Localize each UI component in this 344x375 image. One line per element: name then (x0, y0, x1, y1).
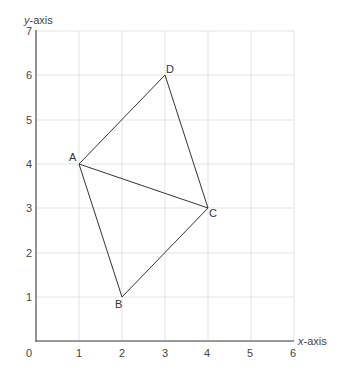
x-axis-title: x-axis (297, 335, 327, 347)
y-tick: 2 (26, 247, 32, 259)
x-tick: 5 (247, 347, 253, 359)
x-tick: 3 (162, 347, 168, 359)
x-tick: 1 (76, 347, 82, 359)
point-label-b: B (115, 298, 122, 310)
y-tick: 5 (26, 114, 32, 126)
x-tick: 0 (26, 347, 32, 359)
grid (36, 31, 294, 341)
x-tick-labels: 0 1 2 3 4 5 6 (26, 347, 296, 359)
y-tick: 7 (26, 25, 32, 37)
y-tick: 4 (26, 158, 32, 170)
y-tick: 3 (26, 202, 32, 214)
point-label-a: A (69, 151, 77, 163)
y-axis-title: y-axis (23, 14, 53, 26)
axes (35, 30, 294, 342)
y-tick: 6 (26, 69, 32, 81)
y-tick: 1 (26, 291, 32, 303)
x-tick: 6 (290, 347, 296, 359)
point-label-d: D (166, 63, 174, 75)
x-tick: 4 (204, 347, 210, 359)
coordinate-diagram: A B C D 0 1 2 3 4 5 6 1 2 3 4 5 6 7 y-ax… (0, 0, 344, 375)
x-tick: 2 (119, 347, 125, 359)
y-tick-labels: 1 2 3 4 5 6 7 (26, 25, 32, 303)
quadrilateral (79, 75, 208, 297)
point-label-c: C (209, 207, 217, 219)
